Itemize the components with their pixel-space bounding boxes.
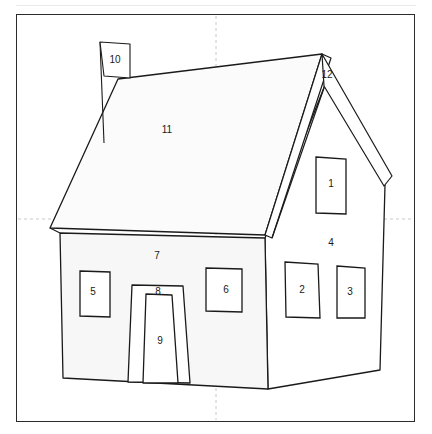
surface-label-10: 10 — [109, 55, 120, 65]
surface-label-12: 12 — [321, 70, 332, 80]
house-line-drawing — [0, 0, 432, 434]
surface-label-11: 11 — [162, 125, 172, 135]
surface-label-2: 2 — [299, 285, 305, 295]
surface-label-6: 6 — [223, 285, 229, 295]
surface-label-8: 8 — [155, 287, 161, 297]
surface-label-4: 4 — [328, 238, 334, 248]
surface-label-5: 5 — [90, 287, 96, 297]
surface-label-9: 9 — [157, 336, 163, 346]
figure-screenshot: 1 2 3 4 5 6 7 8 9 10 11 12 — [0, 0, 432, 434]
surface-label-3: 3 — [347, 287, 353, 297]
surface-label-1: 1 — [328, 179, 334, 189]
surface-label-7: 7 — [154, 251, 160, 261]
